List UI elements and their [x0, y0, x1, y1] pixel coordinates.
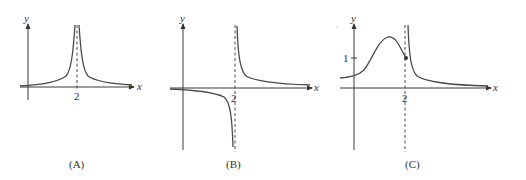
- panel-a: y x 2 (A): [20, 12, 142, 171]
- x-axis-label: x: [136, 80, 142, 92]
- y-axis-label: y: [350, 12, 356, 24]
- x-tick-label: 2: [231, 92, 237, 104]
- panel-b: y x 2 (B): [170, 12, 319, 171]
- right-branch-curve: [408, 25, 488, 86]
- x-axis-label: x: [492, 81, 498, 93]
- x-tick-label: 2: [74, 90, 80, 102]
- panel-caption: (C): [405, 158, 420, 171]
- right-branch-curve: [79, 25, 132, 85]
- panel-c: y x 2 1 (C): [336, 12, 498, 171]
- figure-canvas: y x 2 (A) y x 2 (B) y x 2 1 (C): [0, 0, 526, 180]
- y-tick-label: 1: [343, 52, 349, 64]
- right-branch-curve: [237, 26, 310, 85]
- x-axis-label: x: [313, 81, 319, 93]
- left-branch-curve: [170, 89, 233, 147]
- closed-point: [404, 56, 408, 60]
- left-branch-curve: [340, 37, 406, 78]
- panel-caption: (A): [69, 158, 85, 171]
- stray-dot: [336, 26, 337, 27]
- y-axis-label: y: [23, 12, 29, 24]
- x-tick-label: 2: [402, 92, 408, 104]
- panel-caption: (B): [226, 158, 241, 171]
- y-axis-label: y: [179, 12, 185, 24]
